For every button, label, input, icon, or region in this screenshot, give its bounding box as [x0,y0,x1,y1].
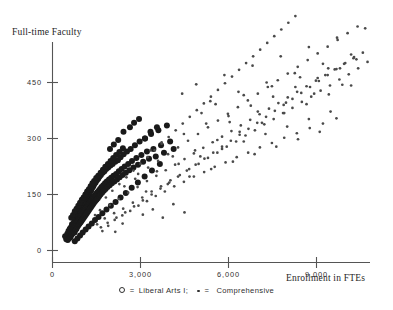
data-point [167,138,173,144]
data-point [167,136,170,139]
data-point [117,198,120,201]
data-point [322,122,325,125]
data-point [247,127,250,130]
data-point [132,201,135,204]
data-point [188,175,191,178]
series-points [62,15,369,244]
data-point [174,163,177,166]
data-point [202,146,205,149]
data-point [252,55,255,58]
data-point [133,155,139,161]
data-point [362,51,365,54]
data-point [309,86,312,89]
data-point [327,67,330,70]
data-point [210,95,213,98]
data-point [177,146,180,149]
data-point [232,160,235,163]
chart-legend: =Liberal Arts I;=Comprehensive [0,286,393,295]
data-point [94,214,97,217]
data-point [96,223,99,226]
data-point [254,129,257,132]
data-point [194,149,197,152]
data-point [195,83,198,86]
data-point [259,48,262,51]
data-point [137,138,143,144]
data-point [211,141,214,144]
data-point [213,166,216,169]
data-point [297,138,300,141]
data-point [142,174,148,180]
data-point [338,78,341,81]
data-point [113,212,116,215]
data-point [364,27,367,30]
data-point [353,56,356,59]
data-point [212,151,215,154]
data-point [195,109,198,112]
y-tick-label: 450 [18,78,42,87]
data-point [235,140,238,143]
data-point [306,59,309,62]
data-point [271,85,274,88]
data-point [200,112,203,115]
data-point [285,101,288,104]
data-point [166,183,169,186]
data-point [316,77,319,80]
data-point [183,211,186,214]
data-point [217,89,220,92]
data-point [346,32,349,35]
data-point [296,132,299,135]
data-point [150,193,153,196]
data-point [319,89,322,92]
data-point [103,217,106,220]
data-point [274,110,277,113]
data-point [329,110,332,113]
data-point [268,107,271,110]
data-point [121,222,124,225]
data-point [214,103,217,106]
data-point [296,65,299,68]
data-point [107,225,110,228]
data-point [108,204,111,207]
data-point [217,119,220,122]
data-point [271,142,274,145]
y-tick-label: 300 [18,134,42,143]
x-tick-label: 9,000 [292,270,342,279]
data-point [279,55,282,58]
data-point [272,95,275,98]
data-point [291,107,294,110]
data-point [203,157,206,160]
data-point [286,96,289,99]
data-point [245,62,248,65]
data-point [147,129,153,135]
data-point [283,112,286,115]
data-point [235,156,238,159]
data-point [99,209,102,212]
data-point [247,99,250,102]
data-point [156,170,159,173]
data-point [164,169,167,172]
data-point [153,153,159,159]
data-point [181,92,184,95]
data-point [134,177,137,180]
data-point [181,122,184,125]
data-point [111,189,114,192]
x-tick-label: 0 [28,270,78,279]
data-point [283,136,286,139]
legend-label-liberal-arts: Liberal Arts I; [139,286,189,295]
data-point [282,104,285,107]
data-point [277,102,280,105]
axis-lines [53,42,371,263]
data-point [225,145,228,148]
data-point [305,103,308,106]
data-point [203,171,206,174]
legend-filled-dot-icon [197,290,199,292]
data-point [100,226,103,229]
data-point [335,68,338,71]
data-point [203,102,206,105]
data-point [350,53,353,56]
data-point [193,175,196,178]
data-point [146,200,149,203]
data-point [256,92,259,95]
data-point [146,180,149,183]
data-point [164,190,167,193]
